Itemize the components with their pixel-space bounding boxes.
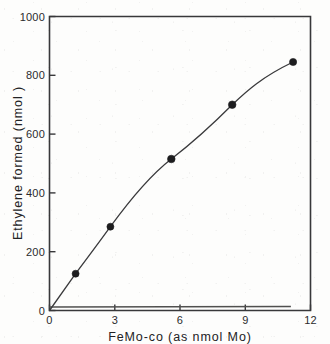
x-tick-label-6: 6 — [177, 314, 183, 326]
axis-frame-path — [50, 17, 311, 311]
data-point-3 — [168, 155, 176, 163]
x-tick-labels: 0 3 6 9 12 — [46, 314, 316, 326]
y-tick-label-0: 0 — [39, 305, 45, 317]
data-point-5 — [290, 58, 297, 65]
y-tick-label-600: 600 — [26, 128, 45, 140]
x-axis-label: FeMo-co (as nmol Mo) — [108, 330, 252, 344]
chart-canvas: 1000 800 600 400 200 0 0 3 6 9 12 Ethyle… — [0, 0, 330, 344]
x-tick-label-12: 12 — [304, 314, 317, 326]
x-tick-label-0: 0 — [46, 314, 52, 326]
y-axis-label: Ethylene formed (nmol ) — [11, 86, 25, 240]
y-tick-label-800: 800 — [26, 69, 45, 81]
data-point-4 — [228, 101, 236, 109]
data-point-1 — [72, 270, 79, 277]
series-control-baseline — [50, 306, 291, 307]
figure-container: 1000 800 600 400 200 0 0 3 6 9 12 Ethyle… — [0, 0, 330, 344]
y-tick-label-400: 400 — [26, 187, 45, 199]
y-tick-label-200: 200 — [26, 246, 45, 258]
series-ethylene-formed — [50, 62, 294, 311]
baseline-path — [50, 306, 291, 307]
x-tick-label-9: 9 — [242, 314, 248, 326]
y-tick-label-1000: 1000 — [20, 11, 45, 23]
plot-frame — [50, 17, 311, 311]
ethylene-curve-path — [50, 62, 294, 311]
y-axis-ticks — [50, 17, 56, 311]
data-point-2 — [107, 223, 114, 230]
x-tick-label-3: 3 — [112, 314, 118, 326]
data-point-markers — [72, 58, 297, 277]
